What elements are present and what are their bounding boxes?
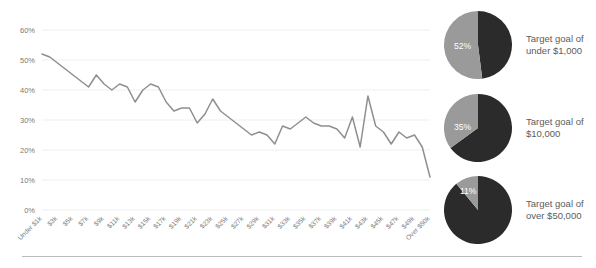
pie-caption-1-line2: $10,000 bbox=[526, 128, 584, 141]
pie-caption-0: Target goal of under $1,000 bbox=[526, 33, 584, 58]
x-axis-tick-label: $47k bbox=[385, 214, 401, 230]
pie-caption-1: Target goal of $10,000 bbox=[526, 116, 584, 141]
pie-chart-over-50000: 11% bbox=[442, 174, 514, 246]
pie-percent-label-0: 52% bbox=[454, 41, 471, 51]
pie-caption-1-line1: Target goal of bbox=[526, 116, 584, 129]
x-axis-tick-label: $27k bbox=[229, 214, 245, 230]
x-axis-tick-label: $35k bbox=[291, 214, 307, 230]
pie-slice-remaining bbox=[478, 11, 512, 79]
x-axis-labels-group: Under $1k$3k$5k$7k$9k$11k$13k$15k$17k$19… bbox=[16, 214, 431, 241]
x-axis-tick-label: $25k bbox=[214, 214, 230, 230]
pie-caption-0-line2: under $1,000 bbox=[526, 45, 584, 58]
y-axis-tick-label: 50% bbox=[20, 56, 35, 65]
x-axis-tick-label: $37k bbox=[307, 214, 323, 230]
y-axis-tick-label: 40% bbox=[20, 86, 35, 95]
pie-chart-under-1000: 52% bbox=[442, 9, 514, 81]
y-axis-tick-label: 0% bbox=[24, 206, 35, 215]
line-chart-panel: 0%10%20%30%40%50%60% Under $1k$3k$5k$7k$… bbox=[0, 0, 436, 250]
x-axis-tick-label: $29k bbox=[245, 214, 261, 230]
pie-percent-label-1: 35% bbox=[454, 122, 471, 132]
x-axis-tick-label: $43k bbox=[354, 214, 370, 230]
pie-caption-2-line1: Target goal of bbox=[526, 198, 584, 211]
x-axis-tick-label: $33k bbox=[276, 214, 292, 230]
x-axis-tick-label: $9k bbox=[92, 214, 105, 227]
pie-caption-0-line1: Target goal of bbox=[526, 33, 584, 46]
x-axis-tick-label: $5k bbox=[61, 214, 74, 227]
infographic-root: 0%10%20%30%40%50%60% Under $1k$3k$5k$7k$… bbox=[0, 0, 596, 268]
x-axis-tick-label: $21k bbox=[183, 214, 199, 230]
series-line bbox=[42, 54, 430, 177]
x-axis-tick-label: $41k bbox=[338, 214, 354, 230]
gridlines-group bbox=[42, 30, 430, 210]
pie-chart-10000: 35% bbox=[442, 92, 514, 164]
x-axis-tick-label: $13k bbox=[121, 214, 137, 230]
pie-row-10000: 35% Target goal of $10,000 bbox=[442, 89, 596, 167]
y-axis-labels-group: 0%10%20%30%40%50%60% bbox=[20, 26, 35, 215]
pie-caption-2-line2: over $50,000 bbox=[526, 210, 584, 223]
x-axis-tick-label: $3k bbox=[46, 214, 59, 227]
y-axis-tick-label: 20% bbox=[20, 146, 35, 155]
line-chart-svg: 0%10%20%30%40%50%60% Under $1k$3k$5k$7k$… bbox=[0, 0, 436, 250]
x-axis-tick-label: $17k bbox=[152, 214, 168, 230]
footer-divider bbox=[22, 256, 582, 257]
x-axis-tick-label: Under $1k bbox=[16, 214, 43, 241]
pie-svg-0 bbox=[442, 9, 514, 81]
y-axis-tick-label: 30% bbox=[20, 116, 35, 125]
pie-row-over-50000: 11% Target goal of over $50,000 bbox=[442, 171, 596, 249]
pie-caption-2: Target goal of over $50,000 bbox=[526, 198, 584, 223]
pie-svg-1 bbox=[442, 92, 514, 164]
pie-svg-2 bbox=[442, 174, 514, 246]
y-axis-tick-label: 60% bbox=[20, 26, 35, 35]
x-axis-tick-label: $45k bbox=[369, 214, 385, 230]
x-axis-tick-label: $11k bbox=[106, 214, 121, 229]
x-axis-tick-label: $7k bbox=[77, 214, 90, 227]
x-axis-tick-label: $15k bbox=[136, 214, 152, 230]
y-axis-tick-label: 10% bbox=[20, 176, 35, 185]
pie-row-under-1000: 52% Target goal of under $1,000 bbox=[442, 6, 596, 84]
x-axis-tick-label: $39k bbox=[323, 214, 339, 230]
x-axis-tick-label: $23k bbox=[198, 214, 214, 230]
x-axis-tick-label: $31k bbox=[260, 214, 276, 230]
x-axis-tick-label: $19k bbox=[167, 214, 183, 230]
pie-percent-label-2: 11% bbox=[460, 186, 476, 196]
